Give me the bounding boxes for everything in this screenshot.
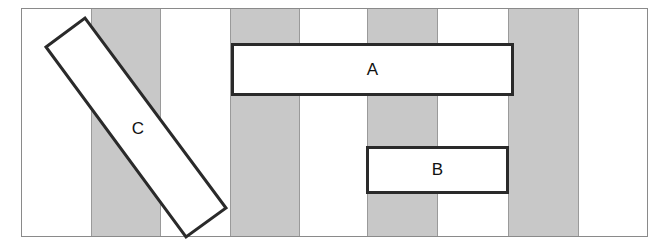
rectangle-c-label: C <box>132 119 144 138</box>
rectangle-c: C <box>0 0 663 252</box>
